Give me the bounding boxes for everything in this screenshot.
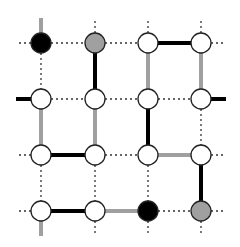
lattice-diagram bbox=[0, 0, 240, 247]
node-gray bbox=[85, 33, 105, 53]
node-black bbox=[31, 33, 51, 53]
node-white bbox=[191, 89, 211, 109]
node-white bbox=[138, 89, 158, 109]
node-white bbox=[31, 145, 51, 165]
node-white bbox=[191, 33, 211, 53]
node-white bbox=[85, 201, 105, 221]
node-gray bbox=[191, 201, 211, 221]
node-white bbox=[31, 89, 51, 109]
nodes-layer bbox=[31, 33, 211, 221]
node-white bbox=[138, 145, 158, 165]
node-white bbox=[85, 89, 105, 109]
node-black bbox=[138, 201, 158, 221]
node-white bbox=[85, 145, 105, 165]
node-white bbox=[138, 33, 158, 53]
node-white bbox=[191, 145, 211, 165]
lattice-graph-canvas bbox=[0, 0, 240, 247]
node-white bbox=[31, 201, 51, 221]
